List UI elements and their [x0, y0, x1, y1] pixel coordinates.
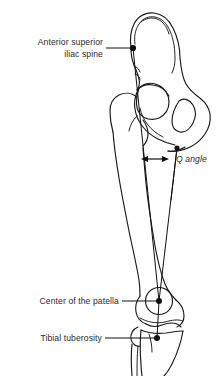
center-of-the-patella-label: Center of the patella — [40, 296, 120, 306]
q-angle-arrow-group — [141, 156, 169, 162]
hip-reference-dot — [174, 145, 179, 150]
q-angle-arrow-head-right — [162, 156, 169, 162]
q-angle-label: Q angle — [176, 154, 207, 164]
q-angle-figure: Anterior superior iliac spine Q angle Ce… — [0, 0, 224, 376]
medial-femoral-condyle — [176, 300, 184, 327]
tibia-lateral-border — [140, 330, 142, 376]
tibia-medial-border — [164, 331, 183, 376]
iliac-crest-inner — [141, 18, 169, 34]
leader-lines — [105, 48, 157, 338]
tibial-tuberosity-to-patella-line — [157, 301, 159, 338]
obturator-foramen — [172, 99, 195, 132]
femur-shaft-medial — [143, 148, 176, 300]
iliac-fossa-line — [135, 17, 175, 73]
fibula-inner-line — [137, 346, 138, 376]
tibial-tuberosity-label: Tibial tuberosity — [40, 333, 102, 343]
pubis-inner-contour — [140, 108, 163, 137]
ilium-outline — [130, 13, 210, 152]
femoral-condyle-articular-surface — [146, 323, 181, 327]
tibial-plateau — [141, 330, 183, 333]
pelvis-group — [130, 13, 210, 152]
asis-label-line2: iliac spine — [64, 49, 103, 59]
asis-label-line1: Anterior superior — [38, 37, 103, 47]
femur-shaft-lateral — [113, 132, 140, 296]
fibular-head — [131, 327, 140, 346]
intercondylar-notch — [140, 318, 183, 323]
text-labels: Anterior superior iliac spine Q angle Ce… — [38, 37, 207, 343]
tibial-tuberosity-contour — [149, 334, 152, 352]
femoral-neck — [129, 116, 137, 131]
greater-trochanter — [110, 93, 137, 132]
anatomical-illustration: Anterior superior iliac spine Q angle Ce… — [0, 0, 224, 376]
femur-group — [110, 83, 184, 327]
fibula-shaft — [131, 344, 132, 376]
